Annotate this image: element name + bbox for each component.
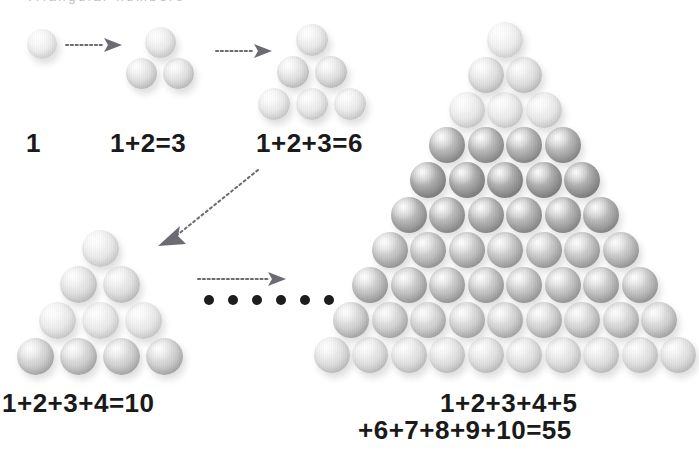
ball [315,56,347,88]
ball [372,232,408,268]
ball [468,267,504,303]
ball [449,302,485,338]
ball [468,197,504,233]
ball [487,22,523,58]
ball [258,88,290,120]
ball [545,267,581,303]
ball [641,302,677,338]
equation-cap-6: 1+2+3=6 [256,128,363,159]
ball [429,337,465,373]
ball [622,337,658,373]
ball [487,92,523,128]
ball [506,267,542,303]
ball [60,338,97,375]
ball [296,24,328,56]
ball [449,162,485,198]
ball [126,58,157,89]
ball [27,29,57,59]
ball [468,57,504,93]
ball [429,197,465,233]
ball [410,232,446,268]
ball [429,127,465,163]
ball [487,232,523,268]
ball [145,27,176,58]
ball [526,92,562,128]
ball [468,337,504,373]
arrow-3-to-6 [214,40,278,62]
arrow-10-to-55 [196,268,292,290]
ball [583,337,619,373]
ball [163,58,194,89]
ball [564,232,600,268]
ball [487,302,523,338]
equation-cap-10: 1+2+3+4=10 [2,388,155,419]
diagram-canvas: Triangular numbers 11+2=31+2+3=61+2+3+4=… [0,0,699,452]
ball [564,302,600,338]
ball [449,92,485,128]
ball [583,267,619,303]
ball [429,267,465,303]
ball [603,302,639,338]
ball [296,88,328,120]
ball [410,162,446,198]
ball [39,302,76,339]
ball [333,302,369,338]
ball [372,302,408,338]
ball [583,197,619,233]
ball [545,197,581,233]
ellipsis-dots [204,295,334,305]
ball [526,302,562,338]
ball [564,162,600,198]
ball [391,267,427,303]
ball [391,197,427,233]
ball [60,266,97,303]
ball [545,127,581,163]
ball [103,338,140,375]
ball [82,230,119,267]
ball [449,232,485,268]
ball [82,302,119,339]
ball [660,337,696,373]
ball [125,302,162,339]
ball [146,338,183,375]
arrow-6-to-10-diagonal [150,164,270,256]
ball [603,232,639,268]
ball [487,162,523,198]
ball [622,267,658,303]
ball [468,127,504,163]
ball [334,88,366,120]
ball [352,267,388,303]
equation-cap-1: 1 [26,128,41,159]
ball [314,337,350,373]
ball [410,302,446,338]
ball [506,337,542,373]
equation-cap-55b: +6+7+8+9+10=55 [358,415,572,446]
ball [506,57,542,93]
ellipsis-dot [204,295,214,305]
ball [545,337,581,373]
faint-header-text: Triangular numbers [26,0,185,4]
ball [506,127,542,163]
ball [526,232,562,268]
ball [352,337,388,373]
ellipsis-dot [228,295,238,305]
ball [526,162,562,198]
ball [391,337,427,373]
ellipsis-dot [276,295,286,305]
equation-cap-3: 1+2=3 [110,128,186,159]
ball [103,266,140,303]
ball [506,197,542,233]
ellipsis-dot [300,295,310,305]
arrow-1-to-3 [64,34,128,56]
ellipsis-dot [252,295,262,305]
ellipsis-dot [324,295,334,305]
ball [17,338,54,375]
ball [277,56,309,88]
